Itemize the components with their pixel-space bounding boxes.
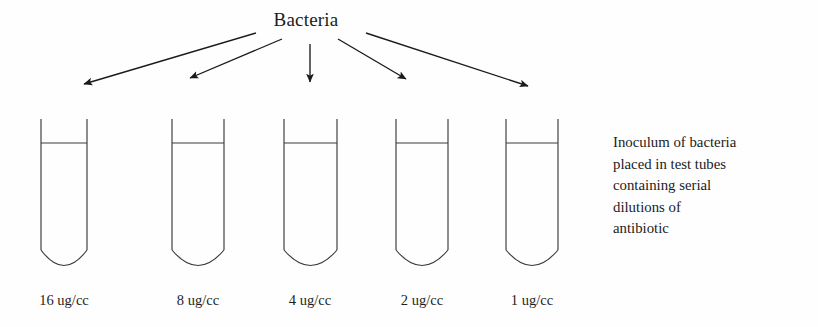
test-tube-3: [284, 119, 337, 266]
caption-text: Inoculum of bacteriaplaced in test tubes…: [613, 132, 813, 240]
page-title: Bacteria: [0, 9, 612, 31]
tube-rounded-bottom: [41, 250, 87, 266]
caption-line-5: antibiotic: [613, 218, 813, 240]
tube-concentration-label-4: 2 ug/cc: [362, 292, 482, 309]
test-tube-1: [41, 119, 87, 266]
test-tube-4: [396, 119, 448, 266]
tube-rounded-bottom: [284, 250, 337, 266]
test-tube-5: [506, 119, 558, 266]
caption-line-4: dilutions of: [613, 197, 813, 219]
tube-rounded-bottom: [506, 250, 558, 266]
arrow-to-tube-4: [338, 39, 406, 79]
arrow-to-tube-2: [190, 39, 282, 78]
tube-concentration-label-1: 16 ug/cc: [4, 292, 124, 309]
test-tubes-group: [41, 119, 558, 266]
caption-line-3: containing serial: [613, 175, 813, 197]
caption-line-2: placed in test tubes: [613, 154, 813, 176]
tube-rounded-bottom: [396, 250, 448, 266]
tube-concentration-label-2: 8 ug/cc: [138, 292, 258, 309]
arrows-group: [84, 33, 528, 86]
caption-line-1: Inoculum of bacteria: [613, 132, 813, 154]
diagram-canvas: Bacteria 16 ug/cc8 ug/cc4 ug/cc2 ug/cc1 …: [0, 0, 818, 327]
arrow-to-tube-5: [366, 33, 528, 86]
tube-concentration-label-3: 4 ug/cc: [250, 292, 370, 309]
test-tube-2: [172, 119, 224, 266]
tube-rounded-bottom: [172, 250, 224, 266]
arrow-to-tube-1: [84, 33, 256, 84]
tube-concentration-label-5: 1 ug/cc: [472, 292, 592, 309]
